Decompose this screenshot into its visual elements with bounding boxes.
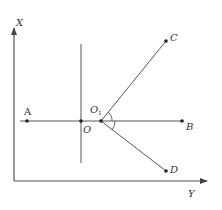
label-o1-subscript: 1 <box>98 109 102 116</box>
point-d <box>164 169 168 173</box>
label-b: B <box>185 121 193 132</box>
point-o1 <box>99 119 103 123</box>
point-c <box>164 39 168 43</box>
label-c: C <box>170 32 178 43</box>
point-o <box>79 119 83 123</box>
angle-arc-bod <box>112 121 115 130</box>
point-b <box>180 119 184 123</box>
label-o1: O <box>90 104 98 115</box>
segment-o1c <box>101 41 166 121</box>
label-o: O <box>83 124 91 135</box>
label-d: D <box>169 164 178 175</box>
angle-arc-cob <box>108 112 112 121</box>
x-axis-label: X <box>15 17 24 28</box>
point-a <box>25 119 29 123</box>
y-axis-label: Y <box>188 188 196 199</box>
segment-o1d <box>101 121 166 171</box>
diagram-canvas: X Y A O O 1 B C D <box>0 0 222 210</box>
label-a: A <box>23 106 32 117</box>
